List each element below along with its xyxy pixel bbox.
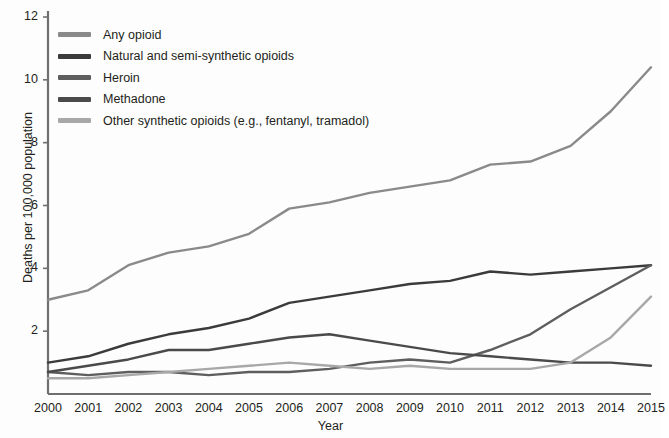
legend-label: Natural and semi-synthetic opioids <box>103 49 294 63</box>
series-line-heroin <box>48 265 651 375</box>
legend-swatch-icon <box>58 118 91 123</box>
series-line-natural-and-semi-synthetic-opioids <box>48 265 651 362</box>
x-tick-label: 2012 <box>510 401 550 415</box>
x-tick-label: 2010 <box>430 401 470 415</box>
legend-item: Any opioid <box>58 24 369 46</box>
legend-swatch-icon <box>58 75 91 80</box>
legend-swatch-icon <box>58 97 91 102</box>
x-tick-label: 2006 <box>269 401 309 415</box>
legend-swatch-icon <box>58 32 91 37</box>
legend-label: Heroin <box>103 71 140 85</box>
y-tick-label: 12 <box>8 9 38 23</box>
x-tick-label: 2002 <box>108 401 148 415</box>
legend-item: Heroin <box>58 67 369 89</box>
legend-item: Other synthetic opioids (e.g., fentanyl,… <box>58 110 369 132</box>
chart-legend: Any opioidNatural and semi-synthetic opi… <box>58 24 369 132</box>
x-tick-label: 2014 <box>591 401 631 415</box>
x-tick-label: 2001 <box>68 401 108 415</box>
x-tick-label: 2009 <box>390 401 430 415</box>
legend-label: Methadone <box>103 92 166 106</box>
legend-item: Natural and semi-synthetic opioids <box>58 46 369 68</box>
x-tick-label: 2011 <box>470 401 510 415</box>
legend-label: Other synthetic opioids (e.g., fentanyl,… <box>103 114 369 128</box>
x-tick-label: 2008 <box>350 401 390 415</box>
x-tick-label: 2004 <box>189 401 229 415</box>
legend-label: Any opioid <box>103 28 161 42</box>
x-tick-label: 2007 <box>309 401 349 415</box>
y-tick-label: 2 <box>8 323 38 337</box>
legend-swatch-icon <box>58 54 91 59</box>
x-tick-label: 2000 <box>28 401 68 415</box>
legend-item: Methadone <box>58 89 369 111</box>
x-tick-label: 2003 <box>149 401 189 415</box>
x-tick-label: 2013 <box>551 401 591 415</box>
x-tick-label: 2005 <box>229 401 269 415</box>
x-axis-title: Year <box>0 419 661 433</box>
x-tick-label: 2015 <box>631 401 669 415</box>
y-axis-title: Deaths per 100,000 population <box>21 123 35 283</box>
y-tick-label: 10 <box>8 72 38 86</box>
